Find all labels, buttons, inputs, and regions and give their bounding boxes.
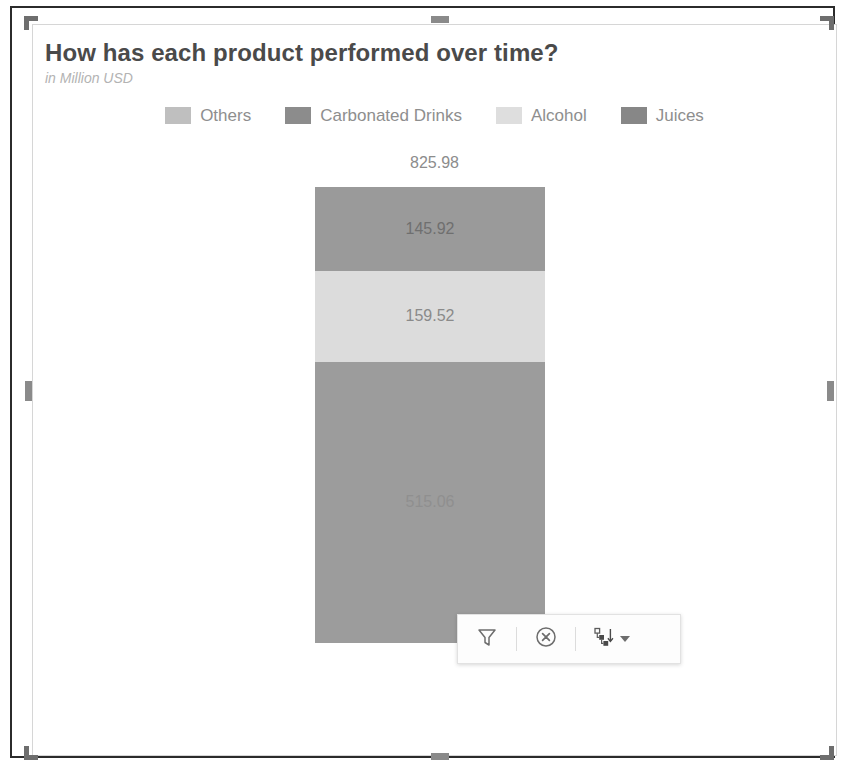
clear-selection-button[interactable] (517, 615, 575, 663)
bar-total-label: 825.98 (33, 154, 836, 172)
drill-hierarchy-icon (593, 626, 615, 652)
legend-item[interactable]: Alcohol (496, 106, 587, 126)
filter-button[interactable] (458, 615, 516, 663)
legend-swatch (165, 107, 191, 124)
viz-toolbar[interactable] (457, 614, 681, 664)
legend-item[interactable]: Carbonated Drinks (285, 106, 462, 126)
page-title: How has each product performed over time… (45, 39, 836, 67)
segment-value-label: 515.06 (406, 493, 455, 511)
legend-swatch (285, 107, 311, 124)
resize-handle-right-center[interactable] (827, 381, 834, 401)
chevron-down-icon[interactable] (620, 636, 630, 642)
resize-handle-top-left[interactable] (24, 16, 40, 32)
legend-item[interactable]: Juices (621, 106, 704, 126)
visualization-card[interactable]: How has each product performed over time… (32, 24, 837, 756)
chart-legend: OthersCarbonated DrinksAlcoholJuices (33, 106, 836, 126)
resize-handle-left-center[interactable] (25, 381, 32, 401)
resize-handle-top-center[interactable] (431, 16, 449, 23)
bar-segment[interactable]: 145.92 (315, 187, 545, 271)
resize-handle-bottom-right[interactable] (818, 744, 834, 760)
chart-header: How has each product performed over time… (33, 25, 836, 86)
plot-area: 825.98 145.92159.52515.06 (33, 132, 836, 692)
drill-mode-button[interactable] (576, 626, 646, 652)
legend-item[interactable]: Others (165, 106, 251, 126)
resize-handle-bottom-left[interactable] (24, 744, 40, 760)
resize-handle-bottom-center[interactable] (431, 753, 449, 760)
circled-x-icon (534, 625, 558, 653)
legend-swatch (621, 107, 647, 124)
legend-label: Others (200, 106, 251, 126)
bar-segment[interactable]: 159.52 (315, 271, 545, 362)
bar-segment[interactable]: 515.06 (315, 362, 545, 643)
resize-handle-top-right[interactable] (818, 16, 834, 32)
chart-subtitle: in Million USD (45, 70, 836, 86)
selection-frame[interactable]: How has each product performed over time… (10, 6, 835, 758)
legend-swatch (496, 107, 522, 124)
legend-label: Alcohol (531, 106, 587, 126)
stacked-bar[interactable]: 145.92159.52515.06 (315, 187, 545, 643)
segment-value-label: 145.92 (406, 220, 455, 238)
legend-label: Juices (656, 106, 704, 126)
funnel-icon (476, 626, 498, 652)
legend-label: Carbonated Drinks (320, 106, 462, 126)
segment-value-label: 159.52 (406, 307, 455, 325)
